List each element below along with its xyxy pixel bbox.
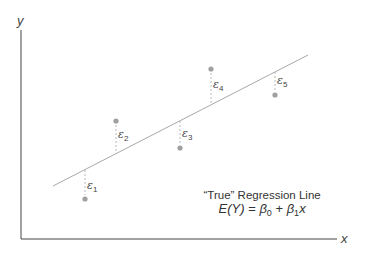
eq-plus: + [272, 201, 287, 216]
data-point-4 [208, 66, 213, 71]
data-point-3 [177, 145, 182, 150]
eq-lhs: E(Y) [219, 201, 245, 216]
data-point-2 [113, 118, 118, 123]
eq-x: x [299, 201, 306, 216]
residual-label-5: ε5 [277, 74, 288, 89]
eq-beta0: β [259, 201, 266, 216]
residual-label-3: ε3 [182, 127, 193, 142]
eq-beta1: β [287, 201, 294, 216]
data-point-1 [82, 196, 87, 201]
eq-equals: = [245, 201, 260, 216]
regression-equation: E(Y) = β0 + β1x [197, 202, 327, 220]
caption-title: “True” Regression Line [197, 188, 327, 202]
regression-line [53, 55, 308, 186]
residual-label-1: ε1 [87, 179, 98, 194]
regression-caption: “True” Regression Line E(Y) = β0 + β1x [197, 188, 327, 220]
residual-label-2: ε2 [118, 128, 129, 143]
y-axis-label: y [16, 13, 25, 28]
x-axis-label: x [340, 231, 348, 246]
residual-label-4: ε4 [213, 78, 224, 93]
data-point-5 [272, 92, 277, 97]
